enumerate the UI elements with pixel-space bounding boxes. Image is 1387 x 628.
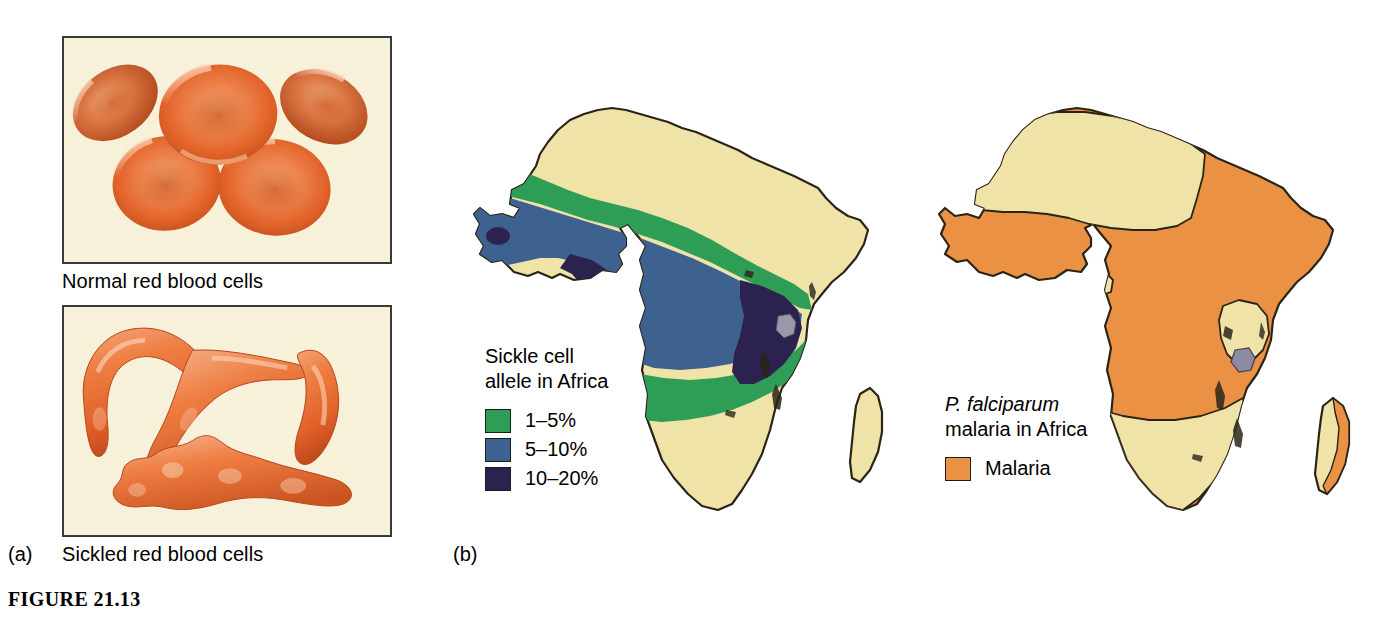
swatch-5-10-percent [485, 438, 511, 462]
malaria-legend-title-line2: malaria in Africa [945, 417, 1087, 442]
zone-10-20-percent-enclave [486, 227, 510, 245]
swatch-10-20-percent [485, 467, 511, 491]
sickled-blood-cells-plate [62, 305, 392, 537]
sickle-legend-rows: 1–5% 5–10% 10–20% [485, 406, 608, 493]
swatch-1-5-percent [485, 409, 511, 433]
malaria-legend-title: P. falciparum malaria in Africa [945, 392, 1087, 442]
malaria-legend: P. falciparum malaria in Africa Malaria [945, 392, 1087, 483]
sickle-legend-title-line1: Sickle cell [485, 344, 608, 369]
legend-label-5-10-percent: 5–10% [525, 438, 587, 461]
normal-blood-cells-plate [62, 36, 392, 264]
legend-item-5-10: 5–10% [485, 435, 608, 464]
malaria-distribution-map [905, 58, 1375, 563]
sickled-red-blood-cells-illustration [64, 307, 390, 535]
legend-label-malaria: Malaria [985, 457, 1051, 480]
legend-label-10-20-percent: 10–20% [525, 467, 598, 490]
swatch-malaria [945, 457, 971, 481]
africa-malaria-svg [905, 58, 1375, 563]
sickled-cells-caption: Sickled red blood cells [62, 543, 263, 566]
malaria-legend-rows: Malaria [945, 454, 1087, 483]
sickle-legend-title-line2: allele in Africa [485, 369, 608, 394]
legend-item-10-20: 10–20% [485, 464, 608, 493]
normal-red-blood-cells-illustration [64, 38, 390, 262]
legend-label-1-5-percent: 1–5% [525, 409, 576, 432]
madagascar [850, 388, 882, 482]
sickle-legend-title: Sickle cell allele in Africa [485, 344, 608, 394]
madagascar [1315, 398, 1349, 494]
legend-item-malaria: Malaria [945, 454, 1087, 483]
normal-cells-caption: Normal red blood cells [62, 270, 263, 293]
figure-label: FIGURE 21.13 [8, 588, 141, 611]
zone-no-malaria-sahara [915, 112, 1205, 230]
panel-a-tag: (a) [8, 543, 32, 566]
zone-no-malaria-coastal-notch [1091, 272, 1113, 296]
sickle-cell-legend: Sickle cell allele in Africa 1–5% 5–10% … [485, 344, 608, 493]
malaria-legend-title-species: P. falciparum [945, 392, 1087, 417]
legend-item-1-5: 1–5% [485, 406, 608, 435]
